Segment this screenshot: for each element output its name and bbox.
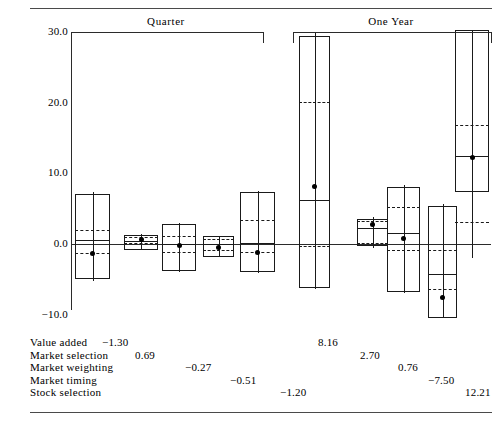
value-quarter: −1.20 (280, 386, 306, 398)
value-table-row-label: Market timing (30, 374, 97, 386)
median-line (299, 200, 330, 201)
value-table-row: Market selection0.692.70 (30, 349, 492, 362)
panel-bracket-quarter (71, 32, 264, 43)
confidence-band-upper (428, 250, 457, 251)
confidence-band-lower (455, 222, 489, 223)
confidence-band-upper (299, 102, 330, 103)
value-marker-dot (255, 250, 260, 255)
value-quarter: −1.30 (102, 336, 128, 348)
value-table-row-label: Value added (30, 336, 87, 348)
confidence-band-lower (357, 243, 388, 244)
median-line (387, 233, 420, 234)
value-quarter: 0.69 (135, 349, 155, 361)
y-tick-label: 20.0 (26, 97, 68, 108)
confidence-band-lower (387, 250, 420, 251)
confidence-band-upper (203, 239, 234, 240)
panel-label-quarter: Quarter (106, 16, 226, 27)
value-table-row-label: Stock selection (30, 386, 101, 398)
box-iqr (455, 30, 489, 192)
value-table-row: Value added−1.308.16 (30, 336, 492, 349)
confidence-band-lower (299, 246, 330, 247)
value-table-row-label: Market weighting (30, 361, 113, 373)
value-marker-dot (90, 251, 95, 256)
value-one-year: −7.50 (428, 374, 454, 386)
confidence-band-upper (240, 220, 275, 221)
y-tick-label: −10.0 (26, 309, 68, 320)
confidence-band-upper (75, 230, 110, 231)
median-line (428, 274, 457, 275)
confidence-band-upper (162, 236, 196, 237)
value-table-row: Market timing−0.51−7.50 (30, 374, 492, 387)
box-iqr (299, 36, 330, 288)
y-tick-label: 30.0 (26, 26, 68, 37)
y-axis (71, 32, 72, 310)
value-table-row-label: Market selection (30, 349, 108, 361)
box-iqr (428, 206, 457, 318)
value-marker-dot (440, 295, 445, 300)
performance-attribution-figure: 30.020.010.00.0−10.0 QuarterOne Year Val… (0, 0, 503, 422)
value-one-year: 0.76 (398, 361, 418, 373)
value-one-year: 12.21 (465, 386, 491, 398)
bottom-horizontal-rule (30, 412, 492, 413)
value-marker-dot (177, 243, 182, 248)
value-quarter: −0.51 (230, 374, 256, 386)
value-marker-dot (470, 155, 475, 160)
median-line (75, 240, 110, 241)
value-table-row: Market weighting−0.270.76 (30, 361, 492, 374)
panel-bracket-one-year (293, 32, 492, 43)
box-iqr (75, 194, 110, 279)
value-one-year: 2.70 (360, 349, 380, 361)
value-one-year: 8.16 (318, 336, 338, 348)
confidence-band-lower (428, 289, 457, 290)
value-marker-dot (312, 184, 317, 189)
value-table-row: Stock selection−1.2012.21 (30, 386, 492, 399)
box-iqr (240, 192, 275, 272)
value-table: Value added−1.308.16Market selection0.69… (30, 336, 492, 399)
top-horizontal-rule (30, 8, 492, 9)
confidence-band-upper (455, 125, 489, 126)
median-line (240, 243, 275, 244)
value-marker-dot (139, 237, 144, 242)
panel-label-one-year: One Year (331, 16, 451, 27)
confidence-band-lower (162, 252, 196, 253)
y-tick-label: 10.0 (26, 167, 68, 178)
median-line (357, 228, 388, 229)
confidence-band-lower (124, 243, 158, 244)
confidence-band-upper (387, 207, 420, 208)
value-quarter: −0.27 (185, 361, 211, 373)
y-tick-label: 0.0 (26, 238, 68, 249)
